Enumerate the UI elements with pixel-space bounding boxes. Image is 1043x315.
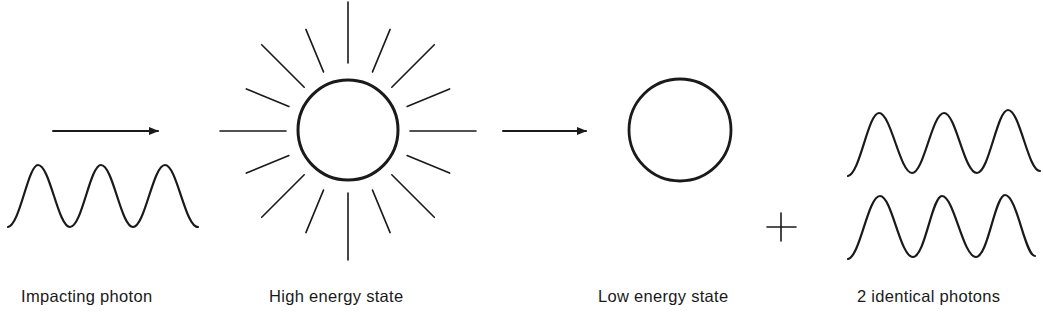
ray-line bbox=[392, 175, 435, 218]
ray-line bbox=[262, 45, 305, 87]
ground-state-atom-icon bbox=[629, 79, 731, 181]
plus-icon bbox=[767, 213, 796, 241]
ray-line bbox=[373, 190, 391, 233]
photon-wave-icon bbox=[8, 165, 198, 227]
impacting-photon-group bbox=[8, 131, 198, 227]
stimulated-photon-wave-icon bbox=[848, 195, 1035, 259]
ray-line bbox=[392, 45, 435, 87]
label-high-energy-state: High energy state bbox=[269, 287, 403, 306]
label-low-energy-state: Low energy state bbox=[598, 287, 728, 306]
emitted-photon-wave-icon bbox=[848, 110, 1040, 176]
ray-line bbox=[306, 190, 324, 233]
excited-atom-icon bbox=[298, 80, 398, 180]
label-identical-photons: 2 identical photons bbox=[857, 287, 1000, 306]
ray-line bbox=[246, 156, 289, 174]
identical-photons-group bbox=[848, 110, 1040, 259]
diagram-canvas bbox=[0, 0, 1043, 315]
ray-line bbox=[407, 156, 450, 174]
ray-line bbox=[306, 29, 324, 72]
ray-line bbox=[407, 89, 450, 107]
high-energy-state-group bbox=[220, 2, 476, 260]
stimulated-emission-diagram: Impacting photon High energy state Low e… bbox=[0, 0, 1043, 315]
energy-rays-icon bbox=[220, 2, 476, 260]
ray-line bbox=[373, 29, 391, 72]
label-impacting-photon: Impacting photon bbox=[21, 287, 152, 306]
ray-line bbox=[262, 175, 305, 218]
ray-line bbox=[246, 89, 289, 107]
